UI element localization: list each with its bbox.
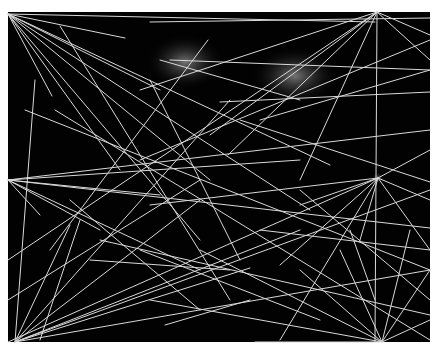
abstract-line-artwork: [0, 0, 444, 348]
